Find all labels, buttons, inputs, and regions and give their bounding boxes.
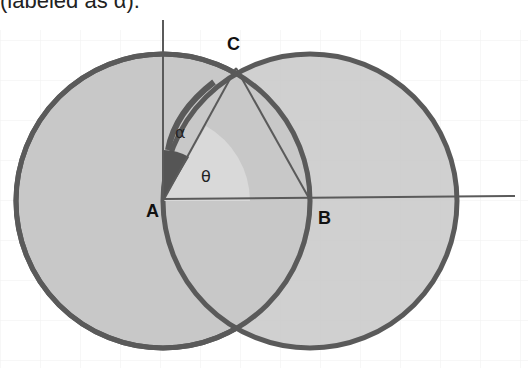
label-alpha: α: [175, 123, 186, 142]
label-b: B: [318, 208, 331, 228]
label-theta: θ: [201, 167, 211, 186]
geometry-diagram: C A B α θ: [0, 0, 528, 368]
label-a: A: [146, 201, 159, 221]
label-c: C: [227, 34, 240, 54]
